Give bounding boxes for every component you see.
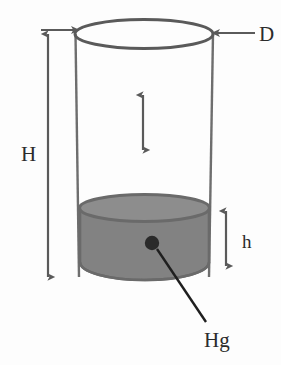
label-substance-hg: Hg: [204, 328, 230, 352]
mercury-volume: [80, 195, 210, 281]
cylinder-left-wall: [76, 34, 80, 277]
mercury-point-marker: [145, 236, 159, 250]
diagram-canvas: H D h Hg: [0, 0, 281, 365]
label-diameter: D: [259, 22, 274, 46]
mercury-top-surface: [80, 195, 210, 222]
mercury-cylinder-diagram: H D h Hg: [0, 0, 281, 365]
cylinder-top-rim: [75, 20, 213, 49]
label-mercury-height: h: [242, 231, 252, 252]
label-total-height: H: [21, 142, 36, 166]
